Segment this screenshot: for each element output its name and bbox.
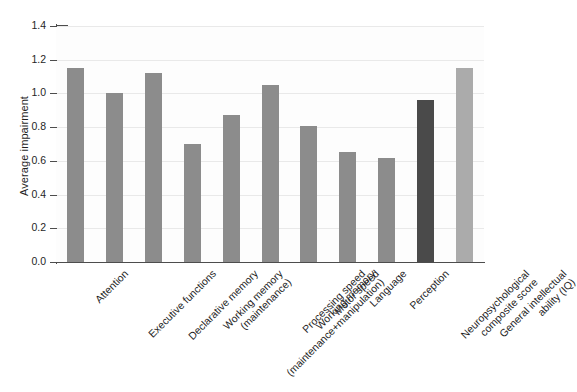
x-tick-label: Declarative memory (187, 268, 261, 342)
x-tick-label-line: (maintenance+manipulation) (284, 276, 386, 378)
y-tick-label: 0.4 (0, 188, 46, 200)
x-tick-label-line: Perception (407, 267, 451, 311)
gridline (56, 60, 484, 61)
x-tick-label: General intellectualability (IQ) (497, 268, 577, 348)
x-tick-label: Perception (407, 268, 451, 312)
x-tick-label-line: (maintenance) (229, 276, 293, 340)
y-tick-label: 0.0 (0, 255, 46, 267)
bar (417, 100, 434, 262)
y-tick-label: 1.0 (0, 86, 46, 98)
x-tick-label: Executive functions (147, 268, 219, 340)
y-tick-mark (50, 93, 57, 94)
x-tick-label-line: Language (367, 267, 409, 309)
bar (339, 152, 356, 262)
x-tick-label: Motor speed (332, 268, 381, 317)
x-tick-label-line: Neuropsychological (458, 267, 531, 340)
x-tick-label: Language (367, 268, 408, 309)
x-tick-label: Attention (94, 268, 131, 305)
y-tick-mark (50, 127, 57, 128)
y-tick-mark (50, 26, 57, 27)
y-tick-label: 0.6 (0, 154, 46, 166)
gridline (56, 26, 484, 27)
x-tick-label: Processing speed (300, 268, 367, 335)
y-tick-mark (50, 228, 57, 229)
y-tick-mark (50, 195, 57, 196)
bar (378, 158, 395, 263)
x-tick-label-line: Attention (93, 267, 131, 305)
y-tick-label: 1.2 (0, 53, 46, 65)
bar (262, 85, 279, 262)
bar (106, 93, 123, 262)
bar (145, 73, 162, 262)
bar (456, 68, 473, 262)
y-tick-mark (50, 161, 57, 162)
x-tick-label-line: Motor speed (331, 267, 381, 317)
bar (300, 126, 317, 263)
x-tick-label-line: Declarative memory (186, 267, 261, 342)
y-axis-title: Average impairment (18, 46, 30, 246)
y-tick-label: 0.8 (0, 120, 46, 132)
y-tick-label: 1.4 (0, 19, 46, 31)
x-tick-label-line: ability (IQ) (505, 276, 577, 348)
bar (67, 68, 84, 262)
plot-area (56, 26, 484, 262)
bar (223, 115, 240, 262)
x-tick-label-line: General intellectual (496, 267, 568, 339)
y-tick-label: 0.2 (0, 221, 46, 233)
x-tick-label: Working memory(maintenance+manipulation) (276, 268, 386, 378)
y-tick-mark (50, 262, 57, 263)
x-tick-label-line: Executive functions (146, 267, 218, 339)
bar (184, 144, 201, 262)
x-tick-label-line: Working memory (221, 267, 285, 331)
x-tick-label-line: Working memory (313, 267, 377, 331)
x-tick-label: Neuropsychologicalcomposite score (458, 268, 539, 349)
x-tick-label: Working memory(maintenance) (221, 268, 293, 340)
x-axis-line (56, 262, 485, 263)
x-tick-label-line: composite score (467, 276, 540, 349)
x-tick-label-line: Processing speed (300, 267, 368, 335)
y-tick-mark (50, 60, 57, 61)
